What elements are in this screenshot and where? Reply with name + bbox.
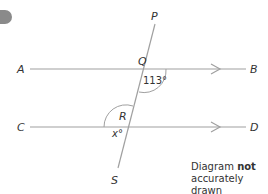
point-label-s: S — [111, 175, 118, 186]
point-label-d: D — [250, 122, 258, 133]
point-label-q: Q — [138, 56, 147, 67]
diagram-note: Diagram not accurately drawn — [191, 161, 268, 194]
angle-label-r: x° — [112, 129, 123, 139]
point-label-r: R — [119, 111, 127, 122]
point-label-a: A — [17, 64, 25, 75]
point-label-b: B — [250, 64, 258, 75]
point-label-p: P — [151, 11, 158, 22]
point-label-c: C — [17, 122, 25, 133]
note-bold: not — [237, 161, 256, 172]
note-suffix: accurately drawn — [191, 173, 243, 194]
note-prefix: Diagram — [191, 161, 234, 172]
angle-label-q: 113° — [143, 76, 167, 86]
transversal-ps — [118, 24, 155, 168]
